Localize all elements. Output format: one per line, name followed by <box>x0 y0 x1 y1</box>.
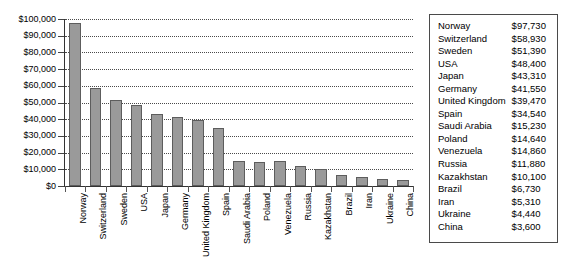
table-row: Japan$43,310 <box>438 71 549 84</box>
x-axis-tick <box>331 186 332 192</box>
y-axis-tick <box>58 153 64 154</box>
bar <box>69 23 81 186</box>
bar <box>192 120 204 186</box>
data-table-panel: Norway$97,730Switzerland$58,930Sweden$51… <box>429 14 558 243</box>
x-axis-label: Norway <box>79 193 88 224</box>
x-axis-tick <box>372 186 373 192</box>
x-axis-tick <box>85 186 86 192</box>
table-cell-value: $6,730 <box>512 184 549 197</box>
bar <box>213 128 225 186</box>
table-row: Russia$11,880 <box>438 159 549 172</box>
y-axis-tick <box>58 86 64 87</box>
y-axis-label: $0 <box>0 182 56 191</box>
x-axis-label: Brazil <box>345 193 354 216</box>
y-axis-label: $40,000 <box>0 115 56 124</box>
x-axis-tick <box>229 186 230 192</box>
x-axis-label: Poland <box>263 193 272 221</box>
table-cell-value: $51,390 <box>512 46 549 59</box>
y-axis-tick <box>58 169 64 170</box>
table-cell-country: Ukraine <box>438 209 512 222</box>
y-axis-tick <box>58 69 64 70</box>
x-axis-tick <box>393 186 394 192</box>
bar <box>274 161 286 186</box>
x-axis-category-labels: NorwaySwitzerlandSwedenUSAJapanGermanyUn… <box>65 193 413 273</box>
x-axis-tick <box>126 186 127 192</box>
table-row: United Kingdom$39,470 <box>438 96 549 109</box>
y-axis-label: $30,000 <box>0 131 56 140</box>
table-cell-country: Russia <box>438 159 512 172</box>
y-axis-tick <box>58 36 64 37</box>
x-axis-tick <box>352 186 353 192</box>
bar <box>90 88 102 186</box>
x-axis-label: Switzerland <box>99 193 108 240</box>
data-table-inner: Norway$97,730Switzerland$58,930Sweden$51… <box>430 15 557 242</box>
x-axis-tick <box>188 186 189 192</box>
x-axis-tick <box>167 186 168 192</box>
screenshot-root: $0$10,000$20,000$30,000$40,000$50,000$60… <box>0 0 566 273</box>
bar <box>254 162 266 186</box>
table-cell-country: Sweden <box>438 46 512 59</box>
y-axis-label: $80,000 <box>0 48 56 57</box>
table-cell-value: $4,440 <box>512 209 549 222</box>
bar <box>315 169 327 186</box>
y-axis-tick-labels: $0$10,000$20,000$30,000$40,000$50,000$60… <box>0 12 56 192</box>
table-cell-country: China <box>438 222 512 235</box>
y-axis-label: $10,000 <box>0 165 56 174</box>
x-axis-ticks <box>65 186 413 193</box>
bar <box>151 114 163 186</box>
y-axis-label: $50,000 <box>0 98 56 107</box>
table-row: Sweden$51,390 <box>438 46 549 59</box>
x-axis-label: Venezuela <box>284 193 293 235</box>
x-axis-label: USA <box>140 193 149 212</box>
x-axis-tick <box>106 186 107 192</box>
bar <box>377 179 389 186</box>
x-axis-tick <box>249 186 250 192</box>
table-cell-value: $43,310 <box>512 71 549 84</box>
table-cell-value: $39,470 <box>512 96 549 109</box>
x-axis-label: Russia <box>304 193 313 221</box>
bar <box>172 117 184 186</box>
table-cell-country: Japan <box>438 71 512 84</box>
y-axis-label: $70,000 <box>0 65 56 74</box>
table-row: Norway$97,730 <box>438 21 549 34</box>
y-axis-tick <box>58 136 64 137</box>
x-axis-label: United Kingdom <box>202 193 211 257</box>
y-axis-tick <box>58 119 64 120</box>
table-cell-country: Norway <box>438 21 512 34</box>
x-axis-label: Japan <box>161 193 170 218</box>
data-table: Norway$97,730Switzerland$58,930Sweden$51… <box>438 21 549 234</box>
bar <box>233 161 245 186</box>
bar <box>131 105 143 186</box>
x-axis-tick <box>65 186 66 192</box>
x-axis-label: Sweden <box>120 193 129 226</box>
x-axis-label: China <box>406 193 415 217</box>
table-row: China$3,600 <box>438 222 549 235</box>
bar <box>295 166 307 186</box>
x-axis-tick <box>270 186 271 192</box>
y-axis-tick <box>58 186 64 187</box>
bar <box>110 100 122 186</box>
x-axis-tick <box>290 186 291 192</box>
bar-chart: $0$10,000$20,000$30,000$40,000$50,000$60… <box>0 0 418 273</box>
bar <box>336 175 348 186</box>
x-axis-tick <box>208 186 209 192</box>
y-axis-tick <box>58 103 64 104</box>
table-row: Brazil$6,730 <box>438 184 549 197</box>
x-axis-tick <box>413 186 414 192</box>
table-cell-value: $3,600 <box>512 222 549 235</box>
table-cell-value: $97,730 <box>512 21 549 34</box>
plot-bars <box>65 19 413 186</box>
y-axis-tick <box>58 52 64 53</box>
y-axis-label: $60,000 <box>0 81 56 90</box>
table-body: Norway$97,730Switzerland$58,930Sweden$51… <box>438 21 549 234</box>
y-axis-label: $20,000 <box>0 148 56 157</box>
x-axis-label: Iran <box>365 193 374 209</box>
x-axis-label: Spain <box>222 193 231 216</box>
x-axis-label: Ukraine <box>386 193 395 224</box>
bar <box>356 177 368 186</box>
x-axis-label: Germany <box>181 193 190 230</box>
table-row: Ukraine$4,440 <box>438 209 549 222</box>
x-axis-tick <box>311 186 312 192</box>
y-axis-label: $90,000 <box>0 31 56 40</box>
table-cell-country: Brazil <box>438 184 512 197</box>
